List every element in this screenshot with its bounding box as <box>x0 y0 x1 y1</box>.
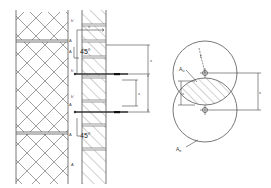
dim-right-vertical: s <box>150 58 152 63</box>
right-dim-label: s <box>259 90 261 95</box>
svg-text:A: A <box>69 102 72 107</box>
svg-text:A: A <box>69 38 72 43</box>
circle-area-label: Ae <box>176 146 182 153</box>
brick-wall <box>82 10 106 184</box>
overlap-circles <box>173 41 261 147</box>
left-dim-label: x <box>182 91 184 96</box>
dim-top-spacing: s <box>88 24 90 29</box>
side-labels: h' A A h' h' A A A <box>69 18 74 167</box>
technical-drawing: 45° 45° s s s h' A A h' h' A A A <box>0 0 271 188</box>
svg-text:h': h' <box>71 68 74 73</box>
overlap-area-label: Aü <box>179 66 185 73</box>
svg-text:h': h' <box>71 94 74 99</box>
dim-inner-vertical: s <box>138 91 140 96</box>
insulation-panel <box>16 10 68 184</box>
svg-text:A: A <box>69 132 72 137</box>
svg-text:A: A <box>71 162 74 167</box>
svg-text:h': h' <box>71 18 74 23</box>
angle-label-top: 45° <box>80 48 91 55</box>
svg-text:A: A <box>69 49 72 54</box>
angle-label-bottom: 45° <box>80 132 91 139</box>
